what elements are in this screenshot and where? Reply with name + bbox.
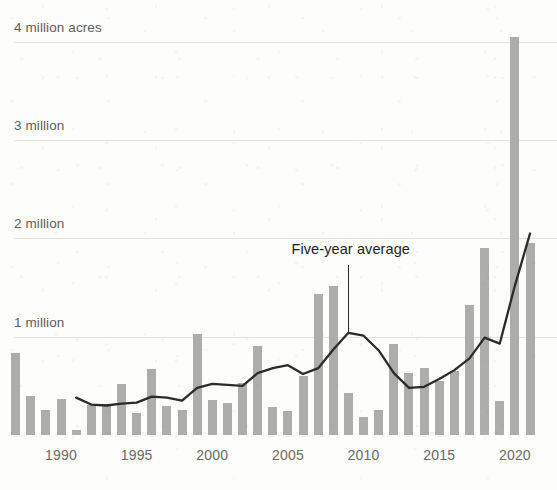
five-year-average-line-layer xyxy=(0,0,557,490)
y-axis-label-4m: 4 million acres xyxy=(14,20,102,35)
y-axis-label-3m: 3 million xyxy=(14,118,64,133)
x-axis-label-2010: 2010 xyxy=(348,447,380,463)
x-axis-label-1995: 1995 xyxy=(121,447,153,463)
chart-container: 4 million acres3 million2 million1 milli… xyxy=(0,0,557,490)
y-axis-label-2m: 2 million xyxy=(14,216,64,231)
x-axis-label-1990: 1990 xyxy=(45,447,77,463)
plot-area: 4 million acres3 million2 million1 milli… xyxy=(0,0,557,490)
five-year-average-line xyxy=(76,233,530,405)
x-axis-label-2005: 2005 xyxy=(272,447,304,463)
x-axis-label-2020: 2020 xyxy=(499,447,531,463)
x-axis-label-2000: 2000 xyxy=(196,447,228,463)
annotation-leader-line xyxy=(348,265,350,333)
x-axis-label-2015: 2015 xyxy=(423,447,455,463)
annotation-label-five-year-average: Five-year average xyxy=(291,241,410,257)
y-axis-label-1m: 1 million xyxy=(14,315,64,330)
